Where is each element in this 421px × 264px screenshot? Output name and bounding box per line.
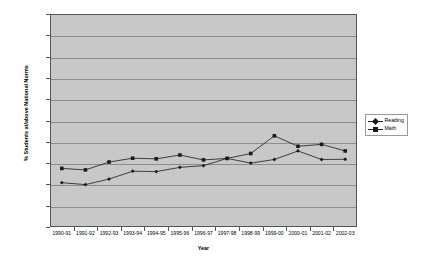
y-tick-mark xyxy=(46,227,50,228)
legend-swatch-icon xyxy=(368,125,383,133)
y-tick-mark xyxy=(46,78,50,79)
y-tick-mark xyxy=(46,14,50,15)
gridline xyxy=(51,36,356,37)
legend-swatch-icon xyxy=(368,117,383,125)
gridline xyxy=(51,79,356,80)
y-axis-title: % Students at/above National Norms xyxy=(23,33,29,193)
gridline xyxy=(51,58,356,59)
gridline xyxy=(51,164,356,165)
y-tick-mark xyxy=(46,184,50,185)
x-tick-label: 2002-03 xyxy=(328,231,362,236)
line-chart: % Students at/above National Norms Year … xyxy=(0,0,421,264)
diamond-marker-icon xyxy=(372,117,379,124)
y-tick-mark xyxy=(46,35,50,36)
chart-legend: ReadingMath xyxy=(365,114,408,136)
gridline xyxy=(51,143,356,144)
legend-entry-math[interactable]: Math xyxy=(368,125,404,133)
legend-label: Reading xyxy=(383,118,404,123)
y-tick-mark xyxy=(46,121,50,122)
legend-label: Math xyxy=(383,126,396,131)
x-axis-title: Year xyxy=(50,245,357,251)
gridline xyxy=(51,100,356,101)
gridline xyxy=(51,185,356,186)
gridline xyxy=(51,122,356,123)
square-marker-icon xyxy=(373,127,378,132)
y-tick-mark xyxy=(46,142,50,143)
y-tick-mark xyxy=(46,99,50,100)
legend-entry-reading[interactable]: Reading xyxy=(368,117,404,125)
gridline xyxy=(51,207,356,208)
y-tick-mark xyxy=(46,206,50,207)
y-tick-mark xyxy=(46,163,50,164)
plot-area xyxy=(50,14,357,227)
y-tick-mark xyxy=(46,57,50,58)
